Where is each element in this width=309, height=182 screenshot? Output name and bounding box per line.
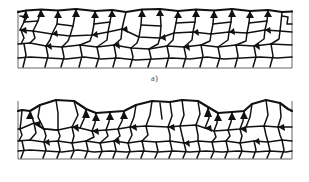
panel-a: a) xyxy=(0,0,309,91)
panel-a-micrograph xyxy=(0,0,309,74)
panel-a-caption: a) xyxy=(0,73,309,83)
panel-b: b) xyxy=(0,91,309,182)
panel-b-micrograph xyxy=(0,91,309,165)
panel-b-grain-boundaries xyxy=(18,100,292,158)
figure-container: a) xyxy=(0,0,309,182)
